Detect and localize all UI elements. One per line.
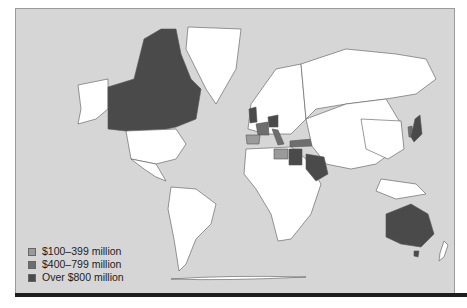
new-zealand [439,241,448,261]
germany [268,115,278,127]
legend-item-mid: $400–799 million [28,258,124,271]
legend-label: Over $800 million [42,271,124,284]
legend-label: $400–799 million [42,258,121,271]
legend-item-high: Over $800 million [28,271,124,284]
tasmania [414,251,419,257]
legend-swatch-high [28,274,36,282]
france [256,122,269,135]
japan [411,115,422,142]
turkey [290,139,312,147]
uk [249,107,257,123]
legend-item-low: $100–399 million [28,245,124,258]
libya [274,149,288,159]
legend-label: $100–399 million [42,245,121,258]
alaska [78,79,108,124]
spain [246,135,260,144]
legend-swatch-mid [28,261,36,269]
australia [386,204,434,247]
se-asia [376,179,426,199]
bottom-rule [15,293,467,297]
legend-swatch-low [28,248,36,256]
usa [126,129,186,164]
egypt [289,149,302,165]
legend: $100–399 million $400–799 million Over $… [28,245,124,284]
antarctica [171,276,306,279]
south-america [168,187,216,271]
map-frame: $100–399 million $400–799 million Over $… [15,8,455,294]
